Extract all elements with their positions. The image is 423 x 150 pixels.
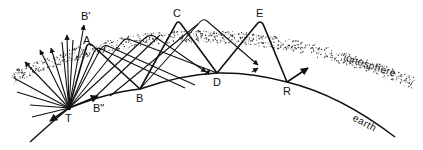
label-c: C [173, 7, 181, 19]
label-e: E [256, 7, 263, 19]
ionospheric-propagation-diagram: T A B' B" B C D E R ionosphere earth [0, 0, 423, 150]
label-ionosphere: ionosphere [342, 51, 397, 78]
label-b-prime: B' [81, 10, 90, 22]
label-a: A [83, 34, 91, 46]
transmitter-dot [67, 106, 71, 110]
label-b: B [136, 92, 143, 104]
label-b-double-prime: B" [93, 102, 104, 114]
reflected-rays [69, 20, 308, 108]
label-transmitter: T [65, 112, 72, 124]
label-receiver: R [283, 85, 291, 97]
label-d: D [213, 76, 221, 88]
